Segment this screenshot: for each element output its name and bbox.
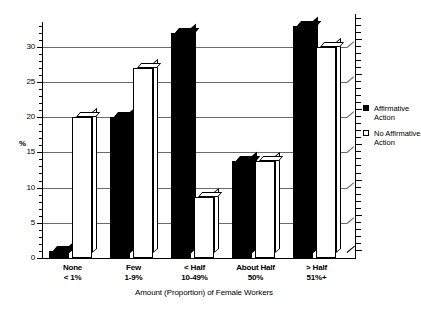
y-axis-minor-tick [39,230,42,231]
y-axis-minor-tick [39,237,42,238]
right-axis-minor-tick [356,53,361,54]
y-axis-tick-label: 10 [5,184,35,192]
right-axis-tick [356,109,362,110]
y-axis-minor-tick [39,33,42,34]
x-axis-category-label: < Half10-49% [160,263,230,283]
x-axis-category-label: None< 1% [38,263,108,283]
y-axis-tick [37,117,42,118]
right-axis-tick [356,250,362,251]
right-axis-minor-tick [356,18,361,19]
right-axis-tick [356,74,362,75]
right-axis-minor-tick [356,151,361,152]
gridline-depth [347,182,355,189]
right-axis-minor-tick [356,236,361,237]
y-axis-tick [37,188,42,189]
y-axis-minor-tick [39,75,42,76]
x-axis-category-line: About Half [221,263,291,273]
x-axis-category-line: 51%+ [282,273,352,283]
right-axis-minor-tick [356,222,361,223]
y-axis-minor-tick [39,216,42,217]
right-axis-minor-tick [356,81,361,82]
bar-side-face [336,37,341,253]
y-axis-minor-tick [39,131,42,132]
y-axis-minor-tick [39,181,42,182]
y-axis-minor-tick [39,159,42,160]
bar-side-face [275,152,280,253]
bar-front-face [110,117,130,258]
y-axis-title: % [19,139,26,148]
right-axis-minor-tick [356,67,361,68]
y-axis-minor-tick [39,103,42,104]
x-axis-category-label: About Half50% [221,263,291,283]
bar-front-face [316,47,336,258]
x-axis-category-line: 10-49% [160,273,230,283]
bar-front-face [232,161,252,258]
legend-label-line1: Affirmative [374,104,421,113]
right-axis-minor-tick [356,60,361,61]
x-axis-category-label: > Half51%+ [282,263,352,283]
legend-item: No AffirmativeAction [363,129,421,147]
bar-front-face [133,68,153,258]
x-axis-category-line: < 1% [38,273,108,283]
y-axis-tick-label: 25 [5,78,35,86]
gridline-depth [347,76,355,83]
y-axis-tick-label: 15 [5,148,35,156]
gridline-depth [347,41,355,48]
y-axis-tick [37,223,42,224]
bar-front-face [72,117,92,258]
y-axis-tick [37,258,42,259]
y-axis-minor-tick [39,145,42,146]
x-axis-category-line: 1-9% [99,273,169,283]
bar-front-face [293,26,313,258]
y-axis-minor-tick [39,138,42,139]
bar-affirmative-action [171,33,191,258]
bar-side-face [214,188,219,253]
y-axis-tick-label: 0 [5,254,35,262]
gridline-depth [347,217,355,224]
right-axis-minor-tick [356,32,361,33]
x-axis-category-label: Few1-9% [99,263,169,283]
bar-front-face [194,197,214,258]
y-axis-minor-tick [39,251,42,252]
right-axis-tick [356,215,362,216]
y-axis-minor-tick [39,96,42,97]
bar-front-face [49,251,69,258]
y-axis-minor-tick [39,54,42,55]
right-axis-minor-tick [356,102,361,103]
right-axis-minor-tick [356,88,361,89]
legend-label-line1: No Affirmative [374,129,421,138]
y-axis-minor-tick [39,124,42,125]
right-axis-minor-tick [356,46,361,47]
x-axis-title: Amount (Proportion) of Female Workers [0,288,408,297]
bar-no-affirmative-action [72,117,92,258]
y-axis-minor-tick [39,26,42,27]
right-axis-minor-tick [356,130,361,131]
bar-affirmative-action [49,251,69,258]
y-axis-minor-tick [39,209,42,210]
right-axis-minor-tick [356,95,361,96]
y-axis-minor-tick [39,40,42,41]
right-axis-minor-tick [356,137,361,138]
right-axis-minor-tick [356,25,361,26]
x-axis-category-line: None [38,263,108,273]
y-axis-minor-tick [39,173,42,174]
bar-front-face [255,161,275,258]
y-axis-minor-tick [39,61,42,62]
y-axis-minor-tick [39,110,42,111]
bar-no-affirmative-action [316,47,336,258]
y-axis-tick [37,152,42,153]
bar-no-affirmative-action [133,68,153,258]
y-axis-minor-tick [39,68,42,69]
x-axis-category-line: < Half [160,263,230,273]
open-square-icon [363,130,369,136]
right-axis-minor-tick [356,116,361,117]
y-axis-tick-label: 30 [5,43,35,51]
legend-label-line2: Action [374,138,421,147]
right-axis-minor-tick [356,123,361,124]
y-axis-tick [37,82,42,83]
bar-no-affirmative-action [194,197,214,258]
y-axis-minor-tick [39,202,42,203]
right-axis-minor-tick [356,165,361,166]
right-axis-tick [356,39,362,40]
